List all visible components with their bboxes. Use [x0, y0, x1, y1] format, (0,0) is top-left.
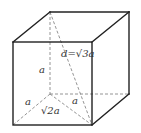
- vertical-edge-label: a: [39, 64, 45, 75]
- left-bottom-edge-label: a: [25, 96, 31, 107]
- space-diagonal-label: d=√3a: [61, 48, 95, 59]
- top-left-depth-edge: [13, 12, 50, 42]
- cube-diagram: d=√3a a a a √2a: [0, 0, 141, 133]
- labels: d=√3a a a a √2a: [25, 48, 95, 116]
- back-bottom-edge-label: a: [72, 95, 78, 106]
- top-right-depth-edge: [92, 12, 129, 42]
- bottom-right-depth-edge: [92, 94, 129, 125]
- bottom-face-diagonal-label: √2a: [41, 105, 60, 116]
